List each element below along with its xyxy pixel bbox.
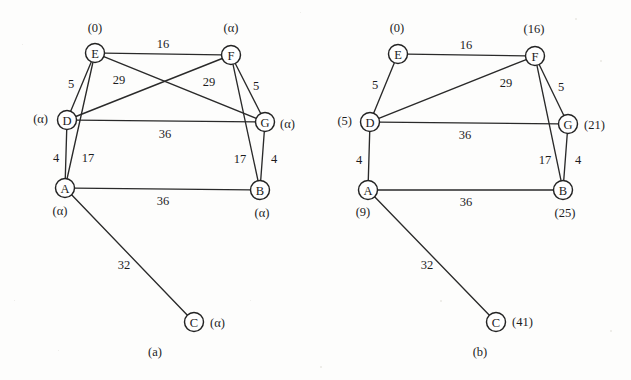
node-label-e: E bbox=[91, 47, 99, 61]
node-distance-f: (16) bbox=[524, 22, 545, 36]
graph-node-f[interactable]: F(16) bbox=[524, 22, 545, 66]
graph-edge-e-f bbox=[408, 54, 526, 56]
graph-node-a[interactable]: A(9) bbox=[356, 181, 378, 220]
edge-weight-a-b: 36 bbox=[460, 195, 473, 209]
graph-edge-a-c bbox=[72, 195, 188, 315]
node-label-f: F bbox=[228, 49, 235, 63]
graph-node-g[interactable]: G(α) bbox=[256, 113, 295, 132]
node-label-e: E bbox=[394, 48, 402, 62]
node-distance-c: (41) bbox=[512, 315, 533, 329]
edge-weight-e-d: 5 bbox=[372, 78, 378, 92]
graph-node-f[interactable]: F(α) bbox=[222, 21, 241, 65]
node-label-c: C bbox=[492, 316, 500, 330]
graph-node-g[interactable]: G(21) bbox=[559, 115, 605, 134]
panel-a: 1616552929171729295517173636444436363232… bbox=[33, 21, 295, 359]
graph-edge-d-g bbox=[77, 120, 256, 122]
edge-weight-e-f: 16 bbox=[157, 37, 170, 51]
node-distance-a: (α) bbox=[53, 204, 68, 218]
edge-weight-a-c: 32 bbox=[421, 258, 434, 272]
edge-weight-f-b: 17 bbox=[539, 153, 552, 167]
node-label-b: B bbox=[256, 184, 264, 198]
node-distance-d: (α) bbox=[33, 112, 48, 126]
node-label-d: D bbox=[62, 114, 71, 128]
node-label-f: F bbox=[532, 50, 539, 64]
node-label-b: B bbox=[559, 184, 567, 198]
graph-edge-d-g bbox=[380, 122, 559, 124]
graph-edge-d-a bbox=[65, 130, 66, 179]
node-distance-f: (α) bbox=[224, 21, 239, 35]
node-distance-g: (21) bbox=[584, 118, 605, 132]
graph-render-root: 1616552929171729295517173636444436363232… bbox=[33, 21, 605, 359]
node-label-d: D bbox=[365, 116, 374, 130]
edge-weight-g-b: 4 bbox=[271, 152, 278, 166]
node-distance-e: (0) bbox=[88, 21, 103, 35]
node-label-g: G bbox=[563, 118, 572, 132]
graph-node-e[interactable]: E(0) bbox=[86, 21, 105, 63]
graph-node-d[interactable]: D(α) bbox=[33, 111, 76, 130]
node-distance-b: (25) bbox=[555, 206, 576, 220]
graph-node-b[interactable]: B(25) bbox=[554, 181, 576, 221]
edge-weight-e-d: 5 bbox=[68, 77, 74, 91]
edge-weight-f-b: 17 bbox=[234, 152, 247, 166]
node-label-a: A bbox=[60, 182, 69, 196]
graph-node-c[interactable]: C(α) bbox=[185, 313, 225, 332]
edge-weight-f-d: 29 bbox=[500, 76, 513, 90]
panel-b: 16165529295517173636444436363232E(0)F(16… bbox=[337, 21, 604, 359]
graph-edge-e-f bbox=[105, 53, 222, 55]
graph-edge-a-c bbox=[375, 197, 490, 315]
node-distance-a: (9) bbox=[356, 205, 371, 219]
edge-weight-e-g: 29 bbox=[113, 73, 126, 87]
graph-edge-a-b bbox=[75, 188, 251, 190]
node-label-c: C bbox=[190, 316, 198, 330]
graph-edge-g-b bbox=[261, 131, 265, 180]
node-distance-c: (α) bbox=[210, 316, 225, 330]
graph-edge-d-a bbox=[368, 132, 369, 181]
edge-weight-d-a: 4 bbox=[53, 151, 60, 165]
graph-node-b[interactable]: B(α) bbox=[251, 181, 270, 221]
edge-weight-a-b: 36 bbox=[157, 194, 170, 208]
edge-weight-a-c: 32 bbox=[118, 258, 131, 272]
graph-diagram-svg: 1616552929171729295517173636444436363232… bbox=[0, 0, 631, 380]
edge-weight-e-a: 17 bbox=[82, 151, 95, 165]
node-distance-b: (α) bbox=[255, 206, 270, 220]
panel-a-caption: (a) bbox=[148, 345, 162, 359]
panel-b-caption: (b) bbox=[473, 345, 488, 359]
figure-canvas: 1616552929171729295517173636444436363232… bbox=[0, 0, 631, 380]
graph-node-d[interactable]: D(5) bbox=[337, 113, 379, 132]
graph-node-c[interactable]: C(41) bbox=[487, 313, 533, 332]
node-label-a: A bbox=[363, 184, 372, 198]
graph-node-a[interactable]: A(α) bbox=[53, 179, 75, 219]
edge-weight-d-g: 36 bbox=[159, 127, 172, 141]
node-distance-e: (0) bbox=[390, 21, 405, 35]
edge-weight-f-d: 29 bbox=[203, 75, 216, 89]
edge-weight-d-a: 4 bbox=[356, 153, 363, 167]
node-label-g: G bbox=[260, 116, 269, 130]
graph-edge-f-d bbox=[76, 59, 222, 117]
node-distance-g: (α) bbox=[280, 117, 295, 131]
edge-weight-f-g: 5 bbox=[253, 79, 259, 93]
node-distance-d: (5) bbox=[337, 114, 352, 128]
graph-edge-g-b bbox=[564, 133, 568, 180]
edge-weight-f-g: 5 bbox=[558, 80, 564, 94]
edge-weight-g-b: 4 bbox=[575, 153, 582, 167]
graph-node-e[interactable]: E(0) bbox=[389, 21, 408, 64]
edge-weight-e-f: 16 bbox=[460, 38, 473, 52]
edge-weight-d-g: 36 bbox=[459, 128, 472, 142]
